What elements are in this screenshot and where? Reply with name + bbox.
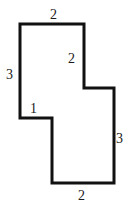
geometry-figure: 2 2 3 1 3 2	[0, 0, 129, 213]
side-label-notch: 1	[30, 102, 37, 116]
side-label-right: 3	[116, 132, 123, 146]
side-label-bottom: 2	[78, 189, 85, 203]
side-label-inner-right: 2	[68, 52, 75, 66]
side-label-left: 3	[6, 68, 13, 82]
polygon-shape	[0, 0, 129, 213]
side-label-top: 2	[50, 8, 57, 22]
